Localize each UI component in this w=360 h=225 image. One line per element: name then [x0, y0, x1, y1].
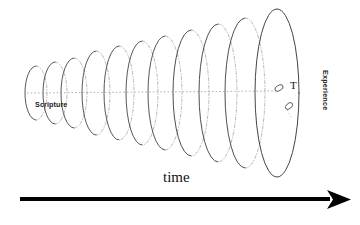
label-time-axis: time — [163, 170, 190, 185]
cone-of-interpretation-diagram — [0, 0, 360, 225]
label-experience: Experience — [322, 70, 329, 110]
diagram-background — [0, 0, 360, 225]
label-t-marker: T — [290, 80, 297, 91]
label-scripture: Scripture — [35, 101, 67, 108]
